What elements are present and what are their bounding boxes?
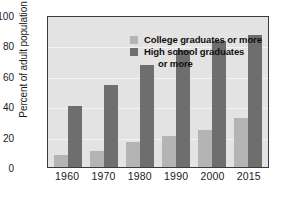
legend-swatch-college-icon: [130, 36, 138, 44]
bar-college: [90, 151, 104, 168]
y-axis-title: Percent of adult population: [18, 0, 29, 135]
legend-entry-college: College graduates or more: [130, 34, 280, 45]
chart-legend: College graduates or more High school gr…: [130, 34, 280, 69]
y-tick-label: 100: [0, 11, 14, 22]
x-tick-label: 2000: [194, 170, 230, 182]
x-tick-label: 1960: [49, 170, 85, 182]
legend-label-highschool-cont: or more: [158, 58, 280, 69]
legend-label-highschool: High school graduates: [144, 46, 244, 57]
plot-area: College graduates or more High school gr…: [47, 16, 269, 168]
bar-chart: Percent of adult population 100 80 60 40…: [0, 0, 288, 197]
y-tick-label: 0: [0, 163, 14, 174]
bar-group: [86, 17, 122, 167]
x-tick-label: 1990: [158, 170, 194, 182]
bar-highschool: [68, 106, 82, 168]
bar-college: [162, 136, 176, 168]
bar-college: [126, 142, 140, 168]
x-tick-label: 1970: [85, 170, 121, 182]
x-axis-ticks: 1960 1970 1980 1990 2000 2015: [47, 170, 269, 182]
x-tick-label: 2015: [231, 170, 267, 182]
legend-entry-highschool: High school graduates: [130, 46, 280, 57]
legend-label-college: College graduates or more: [144, 34, 262, 45]
bar-college: [54, 155, 68, 167]
bar-highschool: [104, 85, 118, 168]
bar-college: [198, 130, 212, 168]
legend-swatch-highschool-icon: [130, 48, 138, 56]
y-tick-label: 60: [0, 71, 14, 82]
bar-college: [234, 118, 248, 168]
y-tick-label: 40: [0, 102, 14, 113]
y-tick-label: 20: [0, 132, 14, 143]
x-tick-label: 1980: [122, 170, 158, 182]
bar-group: [50, 17, 86, 167]
bar-highschool: [140, 65, 154, 167]
y-tick-label: 80: [0, 41, 14, 52]
